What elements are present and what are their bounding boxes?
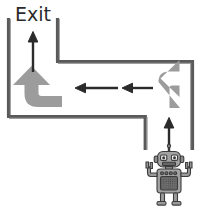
robot-chest-panel (161, 177, 178, 191)
robot-arm-right (181, 162, 192, 177)
robot-leg-left (157, 193, 166, 205)
arrow-left-segment-1 (75, 83, 118, 93)
turn-arrow-right-corner-shape (159, 60, 181, 108)
robot-pupil-right (173, 156, 176, 159)
robot-antenna-tip (167, 144, 170, 147)
robot-mouth-grill (163, 162, 176, 165)
arrow-left-segment-2 (122, 83, 153, 93)
path-arrows (28, 32, 174, 157)
exit-label: Exit (15, 3, 51, 25)
turn-arrow-right-corner (159, 60, 181, 108)
robot-leg-right (172, 193, 181, 205)
robot (146, 144, 192, 205)
robot-chest-button-2 (165, 172, 168, 175)
robot-pupil-left (162, 156, 165, 159)
robot-chest-button-3 (169, 172, 172, 175)
turn-arrow-left-corner-shape (13, 66, 62, 107)
robot-chest-button-4 (174, 172, 177, 175)
maze-diagram (0, 0, 200, 210)
robot-ear-right (180, 156, 184, 163)
robot-ear-left (154, 156, 158, 163)
turn-arrow-left-corner (13, 66, 62, 107)
robot-arm-left (146, 162, 157, 177)
maze-scene: Exit (0, 0, 200, 210)
robot-chest-button-1 (161, 172, 164, 175)
arrow-up-to-exit (28, 32, 38, 73)
